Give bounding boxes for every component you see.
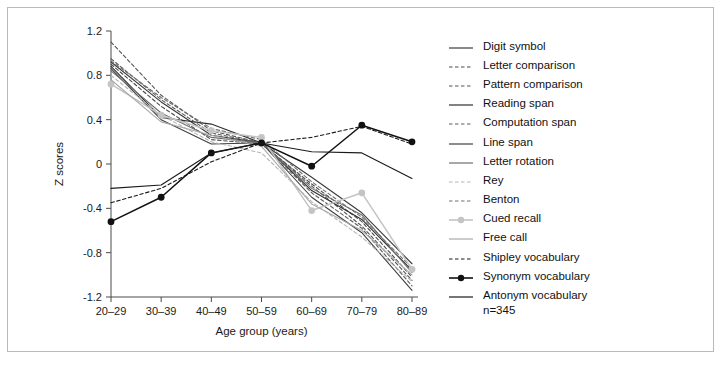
x-axis-ticks: 20–2930–3940–4950–5960–6970–7980–89 <box>96 297 428 317</box>
legend-item[interactable]: Letter comparison <box>448 55 698 74</box>
legend-line-swatch-icon <box>448 116 474 128</box>
legend-item[interactable]: Digit symbol <box>448 36 698 55</box>
series-marker <box>108 218 115 225</box>
series-line <box>111 66 412 270</box>
y-tick-label: 1.2 <box>87 25 102 37</box>
legend-item[interactable]: Computation span <box>448 113 698 132</box>
y-axis-title: Z scores <box>53 142 65 186</box>
series-line <box>111 71 412 273</box>
legend-item[interactable]: Reading span <box>448 94 698 113</box>
sample-size-note: n=345 <box>483 304 515 316</box>
y-axis-ticks: 1.20.80.40-0.4-0.8-1.2 <box>83 25 111 303</box>
legend-item-label: Line span <box>483 136 533 148</box>
legend-line-swatch-icon <box>448 251 474 263</box>
series-marker <box>208 127 215 134</box>
y-tick-label: 0 <box>96 158 102 170</box>
series-line <box>111 84 412 269</box>
legend-item-label: Antonym vocabulary <box>483 289 587 301</box>
x-tick-label: 80–89 <box>397 305 428 317</box>
y-tick-label: 0.4 <box>87 114 102 126</box>
chart-legend: Digit symbolLetter comparisonPattern com… <box>448 36 698 305</box>
legend-line-swatch-icon <box>448 174 474 186</box>
legend-line-swatch-icon <box>448 59 474 71</box>
legend-item-label: Free call <box>483 231 527 243</box>
series-line <box>111 61 412 268</box>
legend-item-label: Synonym vocabulary <box>483 270 590 282</box>
legend-line-swatch-icon <box>448 231 474 243</box>
legend-item-label: Shipley vocabulary <box>483 251 580 263</box>
series-marker <box>158 112 165 119</box>
legend-item[interactable]: Cued recall <box>448 209 698 228</box>
legend-item-label: Digit symbol <box>483 40 546 52</box>
data-series-group <box>108 42 416 290</box>
legend-item[interactable]: Synonym vocabulary <box>448 266 698 285</box>
series-marker <box>308 207 315 214</box>
legend-line-swatch-icon <box>448 289 474 301</box>
legend-item[interactable]: Benton <box>448 190 698 209</box>
x-tick-label: 40–49 <box>196 305 227 317</box>
legend-item-label: Cued recall <box>483 212 541 224</box>
y-tick-label: -1.2 <box>83 291 102 303</box>
legend-line-swatch-icon <box>448 40 474 52</box>
legend-item-label: Benton <box>483 193 519 205</box>
legend-item[interactable]: Rey <box>448 170 698 189</box>
y-tick-label: -0.8 <box>83 247 102 259</box>
y-tick-label: 0.8 <box>87 69 102 81</box>
legend-item-label: Rey <box>483 174 503 186</box>
x-axis-title: Age group (years) <box>215 325 307 337</box>
legend-item[interactable]: Antonym vocabulary <box>448 285 698 304</box>
legend-line-swatch-icon <box>448 155 474 167</box>
x-tick-label: 30–39 <box>146 305 177 317</box>
series-line <box>111 75 412 281</box>
series-marker <box>409 138 416 145</box>
legend-line-swatch-icon <box>448 212 474 224</box>
y-tick-label: -0.4 <box>83 202 102 214</box>
legend-line-swatch-icon <box>448 97 474 109</box>
series-line <box>111 143 412 188</box>
series-line <box>111 64 412 277</box>
legend-item-label: Letter rotation <box>483 155 554 167</box>
series-marker <box>358 122 365 129</box>
legend-item-label: Letter comparison <box>483 59 575 71</box>
x-tick-label: 60–69 <box>296 305 327 317</box>
legend-item[interactable]: Pattern comparison <box>448 74 698 93</box>
x-tick-label: 20–29 <box>96 305 127 317</box>
x-tick-label: 70–79 <box>347 305 378 317</box>
series-marker <box>358 189 365 196</box>
legend-item[interactable]: Free call <box>448 228 698 247</box>
legend-item-label: Computation span <box>483 116 576 128</box>
legend-line-swatch-icon <box>448 136 474 148</box>
series-line <box>111 69 412 291</box>
legend-item[interactable]: Shipley vocabulary <box>448 247 698 266</box>
series-marker <box>409 266 416 273</box>
legend-line-swatch-icon <box>448 193 474 205</box>
legend-item[interactable]: Letter rotation <box>448 151 698 170</box>
series-line <box>111 42 412 280</box>
axis-lines <box>111 31 418 297</box>
legend-item[interactable]: Line span <box>448 132 698 151</box>
series-marker <box>308 163 315 170</box>
figure-panel: 1.20.80.40-0.4-0.8-1.2 20–2930–3940–4950… <box>7 7 714 352</box>
legend-line-swatch-icon <box>448 78 474 90</box>
legend-line-swatch-icon <box>448 270 474 282</box>
series-line <box>111 59 412 286</box>
series-marker <box>158 194 165 201</box>
legend-item-label: Pattern comparison <box>483 78 583 90</box>
x-tick-label: 50–59 <box>246 305 277 317</box>
legend-item-label: Reading span <box>483 97 554 109</box>
